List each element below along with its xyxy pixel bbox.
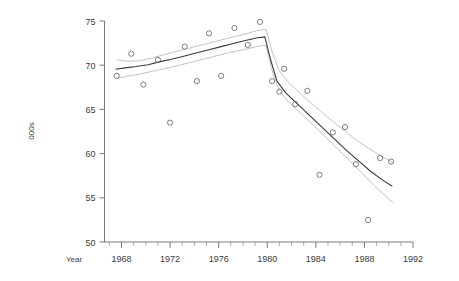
trend-line [115, 37, 392, 186]
data-point [206, 31, 211, 36]
x-tick-label: 1980 [257, 254, 277, 264]
y-tick-label: 60 [85, 149, 95, 159]
data-point [353, 162, 358, 167]
data-point [182, 44, 187, 49]
data-point [114, 73, 119, 78]
data-point [129, 51, 134, 56]
data-point [232, 25, 237, 30]
data-point [141, 82, 146, 87]
y-axis-title: 000s [27, 122, 36, 139]
data-point [257, 19, 262, 24]
x-axis: 1968197219761980198419881992 [105, 242, 424, 264]
data-point [330, 130, 335, 135]
x-axis-title: Year [66, 255, 83, 264]
data-point [342, 124, 347, 129]
data-point [305, 88, 310, 93]
chart-canvas: 505560657075 196819721976198019841988199… [0, 0, 459, 281]
data-points [114, 19, 394, 222]
lower-confidence-line [117, 45, 394, 203]
x-tick-label: 1976 [209, 254, 229, 264]
y-tick-label: 55 [85, 193, 95, 203]
fitted-trend-line [115, 37, 392, 186]
upper-confidence-line [117, 29, 394, 162]
data-point [270, 79, 275, 84]
data-point [282, 66, 287, 71]
scatter-chart: 505560657075 196819721976198019841988199… [0, 0, 459, 281]
y-tick-label: 75 [85, 17, 95, 27]
data-point [194, 79, 199, 84]
x-tick-label: 1968 [111, 254, 131, 264]
data-point [245, 42, 250, 47]
y-tick-label: 50 [85, 238, 95, 248]
confidence-band-lines [117, 29, 394, 203]
data-point [378, 155, 383, 160]
y-tick-label: 70 [85, 61, 95, 71]
y-tick-label: 65 [85, 105, 95, 115]
data-point [219, 73, 224, 78]
data-point [167, 120, 172, 125]
x-tick-label: 1992 [403, 254, 423, 264]
x-tick-label: 1988 [354, 254, 374, 264]
x-tick-label: 1984 [306, 254, 326, 264]
x-tick-label: 1972 [160, 254, 180, 264]
y-axis: 505560657075 [85, 17, 104, 248]
data-point [317, 172, 322, 177]
data-point [365, 217, 370, 222]
